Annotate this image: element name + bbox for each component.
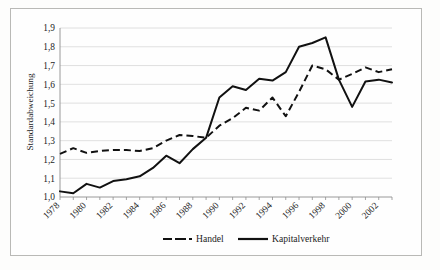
y-tick-labels: 1,01,11,21,31,41,51,61,71,81,9: [43, 23, 55, 202]
chart-figure: 1,01,11,21,31,41,51,61,71,81,9 197819801…: [0, 0, 440, 270]
y-tick-label: 1,4: [43, 117, 55, 127]
x-tick-label: 1990: [200, 200, 221, 221]
line-chart: 1,01,11,21,31,41,51,61,71,81,9 197819801…: [0, 0, 440, 270]
y-axis-label: Standardabweichung: [25, 73, 35, 150]
y-tick-label: 1,8: [43, 42, 55, 52]
y-tick-label: 1,1: [43, 174, 55, 184]
x-tick-label: 1998: [307, 200, 328, 221]
x-tick-labels: 1978198019821984198619881990199219941996…: [41, 200, 380, 221]
x-tick-label: 1986: [147, 200, 168, 221]
x-tick-label: 1980: [68, 200, 89, 221]
x-tick-label: 1996: [280, 200, 301, 221]
legend-label-handel: Handel: [196, 233, 224, 244]
y-tick-label: 1,9: [43, 23, 55, 33]
y-tick-label: 1,5: [43, 99, 55, 109]
x-tick-label: 1992: [227, 200, 248, 221]
x-tick-label: 1994: [254, 200, 275, 221]
y-tick-label: 1,7: [43, 61, 55, 71]
x-tick-label: 2002: [360, 200, 381, 221]
x-tick-label: 2000: [333, 200, 354, 221]
legend: Handel Kapitalverkehr: [163, 233, 330, 244]
y-tick-label: 1,6: [43, 80, 55, 90]
x-tick-label: 1984: [121, 200, 142, 221]
legend-label-kapitalverkehr: Kapitalverkehr: [272, 233, 330, 244]
y-tick-label: 1,2: [43, 155, 55, 165]
series-line-kapitalverkehr: [60, 37, 392, 193]
y-tick-label: 1,3: [43, 136, 55, 146]
x-tick-label: 1982: [94, 200, 115, 221]
x-tick-label: 1978: [41, 200, 62, 221]
gridlines: [60, 28, 392, 178]
x-tick-label: 1988: [174, 200, 195, 221]
